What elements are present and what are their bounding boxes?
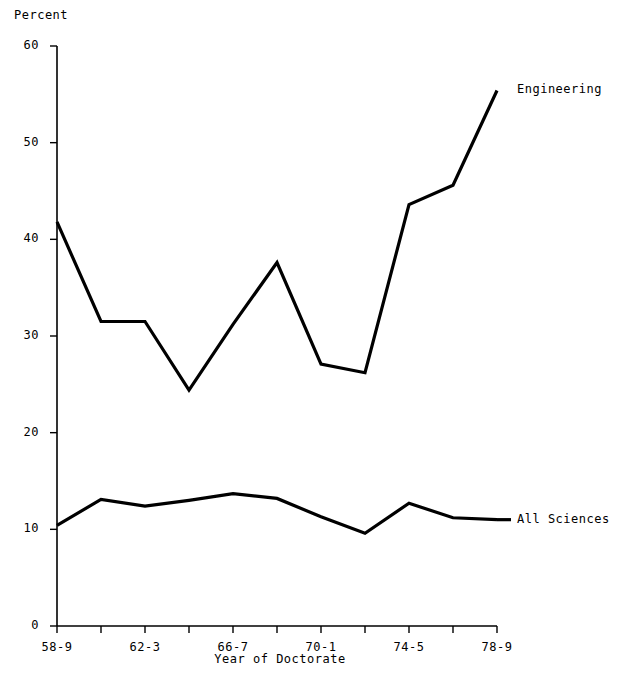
y-tick-label: 40 bbox=[9, 231, 39, 245]
y-tick-label: 20 bbox=[9, 425, 39, 439]
chart-figure: Percent Year of Doctorate 0102030405060 … bbox=[0, 0, 635, 689]
x-axis-ticks bbox=[57, 626, 497, 633]
series-line-engineering bbox=[57, 90, 497, 390]
series-lines bbox=[57, 90, 497, 533]
series-label-engineering: Engineering bbox=[517, 82, 602, 96]
x-tick-label: 78-9 bbox=[467, 640, 527, 654]
series-line-all-sciences bbox=[57, 494, 497, 534]
x-tick-label: 62-3 bbox=[115, 640, 175, 654]
y-tick-label: 10 bbox=[9, 521, 39, 535]
plot-area bbox=[0, 0, 635, 689]
y-tick-label: 30 bbox=[9, 328, 39, 342]
x-tick-label: 74-5 bbox=[379, 640, 439, 654]
y-tick-label: 50 bbox=[9, 135, 39, 149]
axis-lines bbox=[57, 46, 497, 626]
x-tick-label: 66-7 bbox=[203, 640, 263, 654]
y-tick-label: 60 bbox=[9, 38, 39, 52]
x-tick-label: 70-1 bbox=[291, 640, 351, 654]
y-tick-label: 0 bbox=[9, 618, 39, 632]
series-label-all-sciences: All Sciences bbox=[517, 512, 610, 526]
y-axis-ticks bbox=[50, 46, 57, 626]
x-tick-label: 58-9 bbox=[27, 640, 87, 654]
